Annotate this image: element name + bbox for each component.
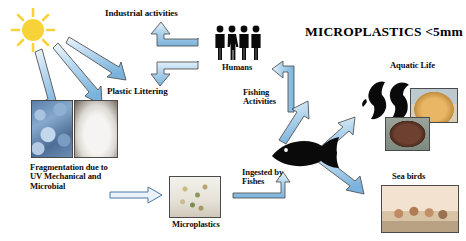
label-humans: Humans bbox=[222, 63, 252, 72]
people-group-icon bbox=[215, 26, 260, 60]
label-plastic-littering: Plastic Littering bbox=[107, 87, 168, 97]
arrow-fragmentation-to-microplastics bbox=[110, 187, 162, 203]
microplastic-grains-photo bbox=[169, 176, 221, 218]
arrow-sun-to-plastic-3 bbox=[66, 37, 126, 80]
arrow-fish-to-fishing bbox=[279, 101, 309, 144]
diagram-canvas: MICROPLASTICS <5mm Industrial activities… bbox=[0, 0, 466, 241]
arrow-fish-to-sea-birds bbox=[306, 147, 364, 194]
label-ingested-by-fishes: Ingested by Fishes bbox=[242, 168, 283, 187]
arrow-elbow-to-plastic-littering bbox=[151, 61, 198, 86]
plastic-bag-photo bbox=[74, 100, 118, 158]
label-fishing-activities: Fishing Activities bbox=[243, 88, 276, 106]
sea-turtle-photo bbox=[385, 117, 430, 151]
plastic-flakes-photo bbox=[31, 100, 73, 158]
page-title: MICROPLASTICS <5mm bbox=[305, 24, 463, 40]
label-sea-birds: Sea birds bbox=[392, 172, 425, 181]
label-industrial-activities: Industrial activities bbox=[105, 9, 178, 19]
sun-icon bbox=[12, 9, 54, 51]
fish-silhouette-icon bbox=[272, 137, 339, 168]
dolphin-silhouette-icon-right bbox=[390, 83, 409, 122]
label-microplastics: Microplastics bbox=[172, 220, 220, 229]
arrow-sun-to-plastic-2 bbox=[53, 43, 102, 105]
label-fragmentation: Fragmentation due to UV Mechanical and M… bbox=[30, 163, 108, 191]
arrow-elbow-to-industrial bbox=[151, 22, 198, 46]
dolphin-silhouette-icon-left bbox=[362, 81, 386, 119]
sea-birds-photo bbox=[381, 185, 459, 233]
arrow-fish-to-aquatic-life bbox=[309, 117, 355, 162]
label-aquatic-life: Aquatic Life bbox=[390, 61, 435, 70]
